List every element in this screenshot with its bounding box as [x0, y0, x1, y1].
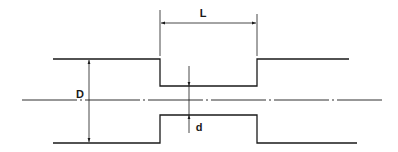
bottom-wall-profile: [53, 115, 357, 143]
inner-diameter-label: d: [196, 121, 203, 133]
pipe-constriction-diagram: L D d: [0, 0, 398, 152]
outer-diameter-label: D: [76, 88, 84, 100]
length-dimension: L: [160, 7, 257, 56]
outer-diameter-dimension: D: [76, 60, 89, 142]
inner-diameter-dimension: d: [189, 66, 202, 133]
length-label: L: [200, 7, 207, 19]
top-wall-profile: [53, 59, 349, 86]
